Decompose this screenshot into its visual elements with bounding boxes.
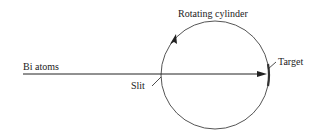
diagram-canvas: Rotating cylinder Bi atoms Slit Target (0, 0, 324, 140)
slit-label: Slit (131, 81, 145, 91)
rotating-cylinder-label: Rotating cylinder (178, 9, 248, 19)
slit-leader-line (152, 77, 161, 86)
target-label: Target (278, 57, 303, 67)
rotation-arrow-icon (170, 34, 177, 44)
bi-atoms-label: Bi atoms (23, 62, 59, 72)
beam-arrow-icon (257, 71, 267, 77)
target-strip (268, 64, 269, 86)
rotating-cylinder-circle (161, 21, 269, 129)
